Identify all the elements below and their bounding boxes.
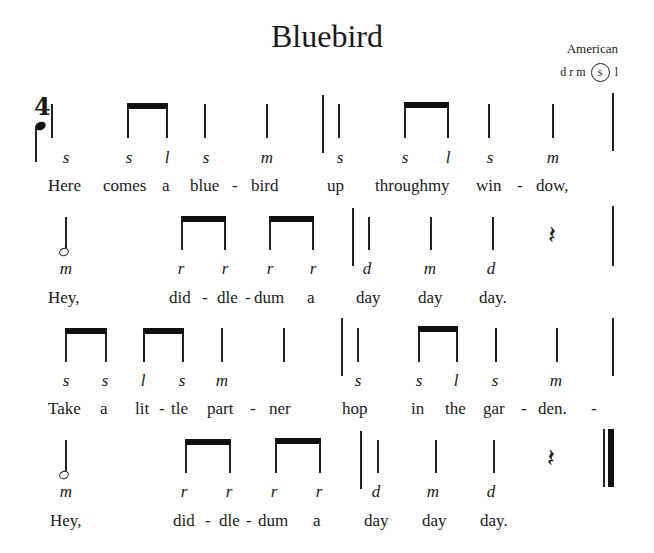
- solfege-syllable: s: [492, 371, 499, 391]
- quarter-note-icon: [377, 440, 379, 473]
- solfege-syllable: s: [102, 371, 109, 391]
- song-title: Bluebird: [0, 18, 654, 55]
- lyric-word: Hey,: [50, 511, 81, 531]
- eighth-note-icon: [127, 104, 129, 138]
- time-signature-top: 4: [34, 92, 51, 121]
- eighth-note-icon: [319, 440, 321, 473]
- solfege-syllable: r: [222, 259, 229, 279]
- solfege-syllable: r: [178, 259, 185, 279]
- solfege-syllable: m: [427, 482, 439, 502]
- solfege-syllable: m: [261, 148, 273, 168]
- barline: [322, 95, 324, 153]
- tonal-prefix: d r m: [560, 65, 585, 79]
- lyric-word: up: [327, 176, 344, 196]
- solfege-syllable: d: [363, 259, 372, 279]
- lyric-hyphen: -: [246, 511, 252, 531]
- tonal-suffix: l: [615, 65, 618, 79]
- lyric-word: day.: [479, 288, 507, 308]
- final-barline-thin: [603, 429, 605, 487]
- song-origin: American: [567, 41, 618, 57]
- lyric-word: bird: [251, 176, 278, 196]
- solfege-syllable: r: [226, 482, 233, 502]
- eighth-note-icon: [447, 104, 449, 138]
- barline: [360, 431, 362, 489]
- beam-icon: [143, 328, 184, 334]
- solfege-syllable: s: [179, 371, 186, 391]
- quarter-note-icon: [338, 104, 340, 138]
- quarter-note-icon: [495, 328, 497, 362]
- solfege-syllable: r: [181, 482, 188, 502]
- barline: [612, 93, 614, 151]
- solfege-syllable: s: [402, 148, 409, 168]
- quarter-note-icon: [357, 328, 359, 362]
- quarter-note-icon: [492, 217, 494, 250]
- beam-icon: [418, 326, 458, 332]
- beam-icon: [65, 328, 107, 334]
- quarter-note-icon: [435, 440, 437, 473]
- barline: [612, 318, 614, 376]
- eighth-note-icon: [166, 104, 168, 138]
- solfege-syllable: d: [487, 482, 496, 502]
- lyric-word: day: [422, 511, 447, 531]
- lyric-hyphen: -: [202, 288, 208, 308]
- solfege-syllable: r: [316, 482, 323, 502]
- tonal-set: d r m s l: [560, 63, 618, 82]
- lyric-hyphen: -: [517, 176, 523, 196]
- lyric-hyphen: -: [205, 511, 211, 531]
- solfege-syllable: s: [355, 371, 362, 391]
- lyric-word: win: [476, 176, 502, 196]
- solfege-syllable: l: [454, 371, 459, 391]
- eighth-note-icon: [275, 440, 277, 473]
- quarter-note-icon: [51, 104, 53, 138]
- half-note-head-icon: [58, 469, 70, 480]
- solfege-syllable: s: [126, 148, 133, 168]
- lyric-word: blue: [190, 176, 219, 196]
- lyric-word: hop: [342, 399, 368, 419]
- solfege-syllable: s: [63, 148, 70, 168]
- quarter-note-icon: [430, 217, 432, 250]
- half-note-stem-icon: [65, 440, 67, 473]
- solfege-syllable: m: [60, 482, 72, 502]
- lyric-word: a: [313, 511, 321, 531]
- eighth-note-icon: [456, 328, 458, 362]
- lyric-word: day: [356, 288, 381, 308]
- lyric-hyphen: -: [591, 399, 597, 419]
- lyric-word: day: [418, 288, 443, 308]
- lyric-word: Hey,: [48, 288, 79, 308]
- lyric-word: did: [173, 511, 195, 531]
- solfege-syllable: m: [547, 148, 559, 168]
- quarter-note-icon: [266, 104, 268, 138]
- beam-icon: [181, 216, 226, 222]
- final-barline-thick: [608, 429, 614, 487]
- lyric-hyphen: -: [250, 399, 256, 419]
- half-note-stem-icon: [65, 217, 67, 250]
- solfege-syllable: s: [63, 371, 70, 391]
- quarter-note-icon: [556, 328, 558, 362]
- lyric-word: day.: [480, 511, 508, 531]
- lyric-word: a: [100, 399, 108, 419]
- eighth-note-icon: [404, 104, 406, 138]
- solfege-syllable: m: [216, 371, 228, 391]
- lyric-word: throughmy: [375, 176, 450, 196]
- quarter-note-stem-icon: [35, 126, 37, 162]
- lyric-word: in: [411, 399, 424, 419]
- lyric-word: a: [162, 176, 170, 196]
- lyric-word: dle: [217, 288, 238, 308]
- solfege-syllable: m: [60, 259, 72, 279]
- lyric-word: comes: [103, 176, 146, 196]
- quarter-note-icon: [283, 328, 285, 362]
- quarter-note-icon: [552, 104, 554, 138]
- lyric-hyphen: -: [159, 399, 165, 419]
- quarter-note-icon: [493, 440, 495, 473]
- solfege-syllable: l: [141, 371, 146, 391]
- quarter-rest-icon: 𝄽: [548, 220, 556, 251]
- quarter-note-icon: [204, 104, 206, 138]
- barline: [341, 318, 343, 376]
- beam-icon: [404, 102, 449, 108]
- quarter-note-icon: [221, 328, 223, 362]
- lyric-word: tle: [171, 399, 188, 419]
- lyric-word: lit: [135, 399, 149, 419]
- quarter-note-icon: [488, 104, 490, 138]
- solfege-syllable: s: [337, 148, 344, 168]
- lyric-hyphen: -: [245, 288, 251, 308]
